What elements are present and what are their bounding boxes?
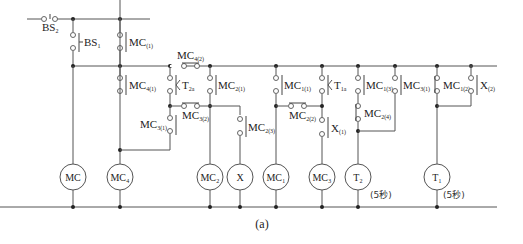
mc1-2-contact: MC1(2): [435, 76, 471, 94]
svg-text:MC: MC: [65, 172, 81, 183]
svg-text:X(1): X(1): [331, 122, 346, 136]
svg-text:MC1(1): MC1(1): [284, 79, 311, 93]
svg-text:MC2(3): MC2(3): [248, 121, 275, 135]
svg-text:MC1(3): MC1(3): [366, 79, 393, 93]
svg-text:MC2(4): MC2(4): [364, 107, 391, 121]
svg-text:X: X: [236, 172, 244, 183]
svg-text:T₂: T₂: [353, 172, 363, 183]
mc1-1-contact: MC1(1): [274, 75, 312, 95]
svg-text:MC2(1): MC2(1): [218, 79, 245, 93]
svg-text:X(2): X(2): [480, 79, 495, 93]
svg-text:MC₃: MC₃: [312, 172, 331, 183]
coil-mc4: MC₄: [107, 164, 133, 190]
coil-mc2: MC₂: [197, 164, 223, 190]
mc2-1-contact: MC2(1): [208, 75, 246, 95]
svg-text:BS1: BS1: [84, 36, 100, 49]
svg-text:T2a: T2a: [182, 79, 195, 92]
svg-text:MC3(1): MC3(1): [140, 118, 167, 132]
svg-text:MC4(2): MC4(2): [177, 49, 204, 63]
t1a-timer-contact: T1a: [320, 75, 347, 95]
mc4-1-contact: MC4(1): [118, 75, 157, 95]
bs2-pushbutton: BS2: [42, 14, 59, 34]
coil-mc1: MC₁: [263, 164, 289, 190]
t2-delay-note: (5秒): [370, 189, 392, 200]
x1-contact: X(1): [320, 117, 346, 138]
svg-text:MC4(1): MC4(1): [129, 79, 156, 93]
svg-text:MC3(1): MC3(1): [403, 79, 430, 93]
mc2-3-contact: MC2(3): [238, 116, 276, 137]
svg-text:T1a: T1a: [334, 79, 347, 92]
coil-mc3: MC₃: [309, 164, 335, 190]
mc1-3-contact: MC1(3): [356, 75, 394, 95]
svg-text:MC₄: MC₄: [110, 172, 130, 183]
mc3-1b-contact: MC3(1): [393, 75, 431, 95]
coil-x: X: [227, 164, 253, 190]
svg-text:T₁: T₁: [432, 172, 442, 183]
coil-t2: T₂: [345, 164, 371, 190]
svg-text:MC₂: MC₂: [200, 172, 219, 183]
t1-delay-note: (5秒): [443, 189, 465, 200]
svg-text:MC₁: MC₁: [266, 172, 285, 183]
x2-contact: X(2): [469, 75, 495, 95]
svg-text:MC2(2): MC2(2): [289, 109, 316, 123]
ladder-diagram: BS2 BS1 MC(1) MC MC4(1) MC₄: [0, 0, 523, 244]
svg-text:MC(1): MC(1): [129, 36, 153, 50]
svg-text:MC3(2): MC3(2): [182, 109, 209, 123]
mc1-holding-contact: MC(1): [118, 32, 154, 52]
bs1-stop-button: BS1: [71, 33, 101, 53]
svg-text:BS2: BS2: [42, 21, 58, 34]
figure-caption: (a): [255, 217, 268, 231]
coil-t1: T₁: [424, 164, 450, 190]
svg-text:MC1(2): MC1(2): [443, 79, 470, 93]
mc3-1-contact: MC3(1): [140, 115, 176, 135]
t2a-timer-contact: T2a: [168, 75, 195, 95]
mc2-4-contact: MC2(4): [356, 104, 392, 122]
coil-mc: MC: [60, 164, 86, 190]
